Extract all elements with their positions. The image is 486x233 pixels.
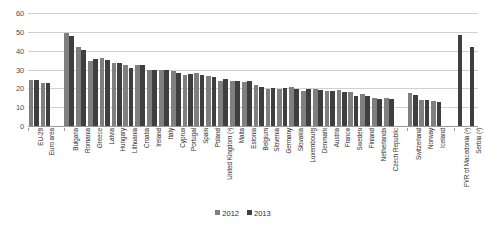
bar-2012 <box>76 47 81 126</box>
x-axis-label: Iceland <box>439 128 446 148</box>
bar-2013 <box>389 99 394 126</box>
bar-group <box>300 13 312 126</box>
bar-2013 <box>200 75 205 126</box>
plot-area <box>28 13 478 126</box>
bar-2012 <box>194 73 199 126</box>
bar-2012 <box>266 89 271 126</box>
bar-2012 <box>348 92 353 126</box>
x-tick <box>87 128 88 131</box>
bar-2012 <box>123 65 128 126</box>
bar-2013 <box>223 79 228 126</box>
x-tick <box>431 128 432 131</box>
x-axis-label: FYR of Macedonia (²) <box>463 128 470 187</box>
x-tick <box>75 128 76 131</box>
x-tick <box>206 128 207 131</box>
legend-item[interactable]: 2013 <box>247 208 271 218</box>
bar-chart: 0102030405060 EU-28Euro areaBulgariaRoma… <box>0 0 486 233</box>
bar-group <box>371 13 383 126</box>
bar-2013 <box>306 89 311 126</box>
x-tick <box>111 128 112 131</box>
bar-group <box>206 13 218 126</box>
bar-2012 <box>64 33 69 126</box>
bar-2013 <box>46 83 51 127</box>
bar-2012 <box>419 100 424 126</box>
bar-2013 <box>271 88 276 126</box>
bar-group <box>360 13 372 126</box>
y-tick-label: 0 <box>20 122 24 131</box>
bar-2013 <box>69 36 74 126</box>
bar-2013 <box>34 80 39 126</box>
bar-group <box>312 13 324 126</box>
bar-group <box>182 13 194 126</box>
bar-2012 <box>29 80 34 126</box>
y-tick-label: 60 <box>16 9 24 18</box>
x-axis-label: Hungary <box>119 128 126 151</box>
bar-2012 <box>372 98 377 126</box>
legend-label: 2012 <box>222 209 239 218</box>
bar-2013 <box>283 88 288 126</box>
bar-2012 <box>408 93 413 126</box>
bar-2012 <box>360 94 365 126</box>
bar-2013 <box>259 87 264 126</box>
bar-2013 <box>458 35 462 126</box>
x-tick <box>277 128 278 131</box>
x-axis-label: Estonia <box>250 128 257 149</box>
bar-2013 <box>176 73 181 126</box>
bar-group <box>289 13 301 126</box>
y-tick-label: 50 <box>16 27 24 36</box>
bar-2012 <box>100 58 105 126</box>
y-tick-label: 40 <box>16 46 24 55</box>
x-tick <box>312 128 313 131</box>
x-tick <box>466 128 467 131</box>
x-axis-label: Slovenia <box>273 128 280 152</box>
bar-2013 <box>354 96 359 126</box>
x-tick <box>289 128 290 131</box>
bar-2013 <box>318 90 323 126</box>
x-tick <box>146 128 147 131</box>
y-axis: 0102030405060 <box>0 0 28 126</box>
x-axis-label: Czech Republic <box>392 128 399 171</box>
bar-2012 <box>147 70 152 127</box>
bar-group <box>419 13 431 126</box>
x-tick <box>28 128 29 131</box>
x-tick <box>348 128 349 131</box>
y-tick-label: 20 <box>16 84 24 93</box>
bar-group <box>324 13 336 126</box>
bar-2012 <box>112 63 117 126</box>
legend-swatch-2013 <box>247 210 252 215</box>
y-tick-label: 10 <box>16 103 24 112</box>
x-axis-label: Finland <box>368 128 375 148</box>
x-tick <box>419 128 420 131</box>
chart-legend: 20122013 <box>0 208 486 218</box>
x-axis-label: Romania <box>84 128 91 153</box>
bar-2013 <box>470 47 474 126</box>
bar-group <box>277 13 289 126</box>
x-tick <box>170 128 171 131</box>
bar-group <box>28 13 40 126</box>
x-tick <box>253 128 254 131</box>
x-axis-label: Euro area <box>48 128 55 155</box>
bar-group <box>75 13 87 126</box>
bar-group <box>64 13 76 126</box>
bar-2013 <box>365 96 370 126</box>
bar-group <box>87 13 99 126</box>
bars-layer <box>28 13 478 126</box>
bar-group <box>146 13 158 126</box>
bar-2013 <box>425 100 430 126</box>
bar-2012 <box>277 89 282 126</box>
bar-2013 <box>235 81 240 126</box>
legend-item[interactable]: 2012 <box>215 208 239 218</box>
bar-2012 <box>325 91 330 126</box>
x-tick <box>99 128 100 131</box>
bar-2012 <box>313 89 318 126</box>
bar-group <box>454 13 466 126</box>
bar-group <box>40 13 52 126</box>
x-tick <box>158 128 159 131</box>
x-axis-label: Slovakia <box>297 128 304 151</box>
x-axis-label: Portugal <box>190 128 197 151</box>
x-tick <box>336 128 337 131</box>
x-axis-label: Sweden <box>356 128 363 151</box>
bar-2012 <box>88 61 93 126</box>
bar-2012 <box>218 81 223 126</box>
bar-group <box>170 13 182 126</box>
